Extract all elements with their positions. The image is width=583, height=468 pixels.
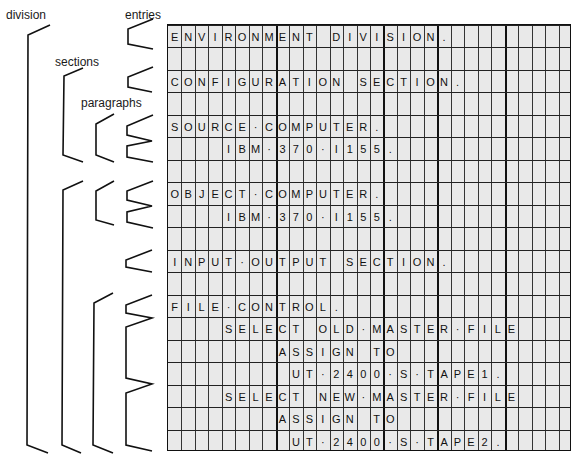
form-cell: L (491, 386, 504, 408)
form-cell: O (235, 26, 248, 48)
form-cell: · (249, 116, 262, 138)
form-cell: · (316, 206, 329, 228)
form-cell: M (262, 26, 275, 48)
form-cell: 0 (303, 138, 316, 160)
form-cell: S (222, 318, 235, 340)
form-cell: 4 (343, 363, 356, 385)
form-cell: E (262, 386, 275, 408)
form-cell: 5 (357, 206, 370, 228)
form-cell: . (370, 116, 383, 138)
form-cell: T (330, 116, 343, 138)
form-cell (330, 251, 343, 273)
form-cell: · (357, 318, 370, 340)
form-cell: O (249, 251, 262, 273)
form-cell: T (370, 341, 383, 363)
form-cell: · (249, 183, 262, 205)
form-cell: S (397, 363, 410, 385)
form-cell: N (181, 26, 194, 48)
form-cell: · (383, 431, 396, 453)
form-cell: · (451, 386, 464, 408)
form-cell: M (289, 183, 302, 205)
form-cell: 3 (276, 138, 289, 160)
form-cell: 1 (343, 206, 356, 228)
form-cell: F (464, 386, 477, 408)
form-cell: S (397, 431, 410, 453)
form-cell: I (303, 71, 316, 93)
form-cell: E (357, 251, 370, 273)
section-bracket-input-output-icon (62, 181, 83, 453)
form-line: INPUT·OUTPUTSECTION. (168, 250, 570, 272)
form-cell: S (303, 341, 316, 363)
form-cell: E (235, 386, 248, 408)
form-cell: 1 (343, 138, 356, 160)
form-cell: N (424, 251, 437, 273)
form-cell: S (168, 116, 181, 138)
form-cell: 2 (478, 431, 491, 453)
form-cell: T (303, 431, 316, 453)
form-cell: N (181, 251, 194, 273)
form-cell: E (208, 296, 221, 318)
form-cell: C (262, 183, 275, 205)
form-cell: 5 (370, 138, 383, 160)
paragraph-bracket-object-icon (96, 181, 114, 225)
form-cell: T (289, 71, 302, 93)
form-cell: T (424, 431, 437, 453)
form-cell: O (410, 26, 423, 48)
form-cell: · (316, 138, 329, 160)
entry-bracket-environment-icon (128, 19, 153, 49)
form-cell: N (437, 71, 450, 93)
form-cell: C (276, 386, 289, 408)
form-cell: N (343, 341, 356, 363)
form-line: FILE·CONTROL. (168, 295, 570, 317)
form-cell: E (424, 318, 437, 340)
form-cell: D (343, 318, 356, 340)
form-cell: I (316, 341, 329, 363)
form-cell: O (181, 116, 194, 138)
form-cell: N (249, 26, 262, 48)
form-cell: R (208, 116, 221, 138)
form-cell: 0 (357, 363, 370, 385)
form-cell: C (370, 251, 383, 273)
form-cell: M (249, 138, 262, 160)
form-cell: N (195, 71, 208, 93)
form-cell: · (410, 431, 423, 453)
form-cell: 5 (370, 206, 383, 228)
form-cell: T (276, 251, 289, 273)
form-cell: · (262, 206, 275, 228)
form-cell: O (303, 296, 316, 318)
form-cell: M (289, 116, 302, 138)
form-cell: 0 (370, 363, 383, 385)
form-cell (316, 26, 329, 48)
form-cell: N (330, 71, 343, 93)
form-line: SOURCE·COMPUTER. (168, 115, 570, 137)
form-cell: A (383, 318, 396, 340)
form-cell: J (195, 183, 208, 205)
form-cell: A (276, 408, 289, 430)
form-cell: I (330, 138, 343, 160)
form-cell: P (451, 363, 464, 385)
form-cell: · (222, 296, 235, 318)
form-cell: E (464, 431, 477, 453)
form-cell: 7 (289, 138, 302, 160)
entry-bracket-input-output-icon (126, 250, 152, 272)
form-cell: T (330, 183, 343, 205)
form-cell: E (208, 183, 221, 205)
form-cell: F (168, 296, 181, 318)
form-cell: E (235, 116, 248, 138)
form-cell: · (410, 363, 423, 385)
form-cell: R (357, 116, 370, 138)
form-cell: O (276, 183, 289, 205)
form-cell: . (491, 363, 504, 385)
form-cell: O (181, 71, 194, 93)
paragraph-bracket-file-control-icon (93, 293, 113, 453)
form-cell: A (437, 363, 450, 385)
form-cell: . (330, 296, 343, 318)
form-line: IBM·370·I155. (168, 137, 570, 159)
form-cell: V (195, 26, 208, 48)
form-line: IBM·370·I155. (168, 205, 570, 227)
form-cell: . (437, 26, 450, 48)
form-cell: E (343, 183, 356, 205)
form-line: UT·2400·S·TAPE1. (168, 362, 570, 384)
form-cell: O (316, 318, 329, 340)
form-cell: R (222, 26, 235, 48)
